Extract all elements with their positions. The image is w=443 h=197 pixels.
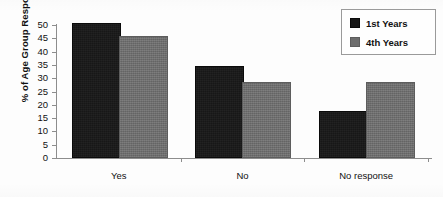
x-category-label: Yes [57,170,181,181]
y-tick-label: 35 [22,59,48,70]
y-tick-label: 45 [22,32,48,43]
bar-chart: % of Age Group Responding 50454035302520… [0,0,443,197]
legend-swatch-4th-years [350,37,360,47]
y-tick-label: 30 [22,72,48,83]
y-tick-label: 25 [22,86,48,97]
bar-1st-years [72,23,121,158]
x-category-label: No response [304,170,428,181]
x-tick-mark [304,158,305,162]
x-tick-mark [428,158,429,162]
x-tick-mark [181,158,182,162]
legend-label-1st-years: 1st Years [366,18,408,29]
y-tick-label: 50 [22,19,48,30]
y-tick-label: 40 [22,46,48,57]
bar-group [181,25,305,158]
x-category-label: No [181,170,305,181]
y-tick-label: 10 [22,125,48,136]
x-axis-line [56,158,432,159]
legend-item-4th-years: 4th Years [350,36,408,48]
bar-1st-years [319,111,368,158]
y-axis-tick-labels: 50454035302520151050 [18,0,48,197]
y-tick-label: 20 [22,99,48,110]
legend-label-4th-years: 4th Years [366,37,408,48]
legend-item-1st-years: 1st Years [350,17,408,29]
y-tick-label: 5 [22,139,48,150]
bar-group [57,25,181,158]
y-tick-label: 15 [22,112,48,123]
legend: 1st Years 4th Years [341,9,436,55]
legend-swatch-1st-years [350,18,360,28]
bar-4th-years [242,82,291,158]
y-tick-label: 0 [22,152,48,163]
bar-4th-years [366,82,415,158]
bar-1st-years [195,66,244,158]
bar-4th-years [119,36,168,158]
